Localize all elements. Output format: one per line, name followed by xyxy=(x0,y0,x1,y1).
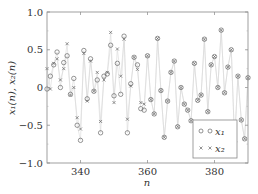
x-axis-label: n xyxy=(144,177,150,188)
y-tick-label: 1.0 xyxy=(27,7,43,18)
y-tick-label: 0 xyxy=(37,82,43,93)
y-axis-label: x₁(n), x₂(n) xyxy=(6,61,17,115)
x-tick-label: 380 xyxy=(205,166,224,177)
y-tick-label: 0.5 xyxy=(27,44,43,55)
legend: x₁ x₂ xyxy=(193,120,237,158)
y-tick-label: −0.5 xyxy=(19,120,43,131)
legend-label-x1: x₁ xyxy=(215,126,225,137)
x-tick-label: 340 xyxy=(71,166,90,177)
x-tick-label: 360 xyxy=(138,166,157,177)
x2-point xyxy=(186,109,189,112)
chart: 340360380−1.0−0.500.51.0 n x₁(n), x₂(n) … xyxy=(0,0,258,194)
legend-label-x2: x₂ xyxy=(215,143,225,154)
y-tick-label: −1.0 xyxy=(19,158,43,169)
